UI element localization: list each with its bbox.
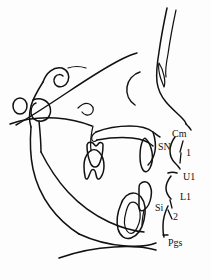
cranial-base-line [16,53,137,125]
label-si: Si [155,203,163,213]
mentolabial-angle-arm-upper [170,200,172,208]
condylar-neck-line [39,121,41,152]
label-angle-2: 2 [173,212,178,222]
nasolabial-angle-arm-upper [180,141,183,152]
lower-lip-profile [166,176,171,199]
submental-neck-outline [59,247,156,258]
soft-tissue-chin-profile [163,206,168,237]
mentolabial-angle-arm-lower [168,210,172,219]
ans-point-spur [92,132,97,142]
sella-turcica-outline [43,68,69,87]
porion-circle [13,98,27,114]
label-l1: L1 [180,192,191,202]
anterior-clinoid-process [68,67,86,69]
orbital-rim-outline [127,72,140,105]
pterygomaxillary-fissure [78,104,93,115]
mandible-internal-oblique-line [41,152,144,232]
nose-tip-columella-line [186,124,191,130]
mandible-body-inferior-border [79,234,156,246]
lower-molar-outline [84,150,104,179]
label-u1: U1 [183,172,195,182]
label-angle-1: 1 [186,148,191,158]
nasal-bone-wedge [159,63,165,87]
label-cm: Cm [172,129,186,139]
nasolabial-angle-arm-lower [180,153,181,163]
label-sn: SN [158,142,171,152]
mandible-ramus-posterior-border [30,127,79,234]
maxilla-palate-outline [96,126,160,137]
cephalometric-tracing-figure: Cm SN 1 U1 L1 Si 2 Pgs [0,0,211,280]
label-pgs: Pgs [168,238,182,248]
lip-commissure-line [168,172,177,173]
upper-lip-profile [170,137,180,169]
forehead-inner-contour [166,10,176,77]
